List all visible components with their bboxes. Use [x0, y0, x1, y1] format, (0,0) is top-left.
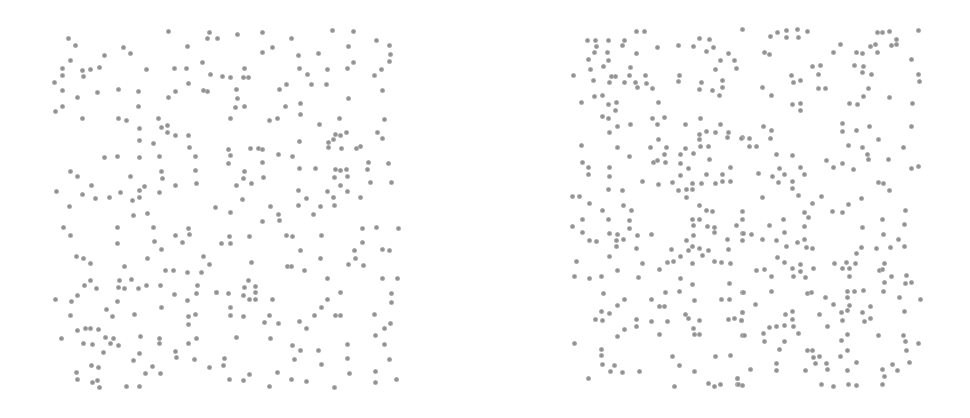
data-point: [304, 196, 309, 201]
data-point: [657, 304, 662, 309]
data-point: [373, 369, 378, 374]
data-point: [860, 310, 865, 315]
data-point: [360, 226, 365, 231]
data-point: [302, 268, 307, 273]
data-point: [664, 145, 669, 150]
data-point: [882, 261, 887, 266]
data-point: [241, 293, 246, 298]
data-point: [131, 358, 136, 363]
data-point: [186, 226, 191, 231]
data-point: [260, 147, 265, 152]
data-point: [270, 45, 275, 50]
data-point: [669, 247, 674, 252]
data-point: [345, 66, 350, 71]
data-point: [290, 154, 295, 159]
data-point: [318, 256, 323, 261]
data-point: [798, 262, 803, 267]
data-point: [802, 210, 807, 215]
data-point: [706, 248, 711, 253]
data-point: [242, 104, 247, 109]
data-point: [339, 146, 344, 151]
data-point: [699, 80, 704, 85]
data-point: [358, 195, 363, 200]
data-point: [600, 318, 605, 323]
data-point: [739, 136, 744, 141]
data-point: [228, 305, 233, 310]
data-point: [593, 317, 598, 322]
data-point: [137, 351, 142, 356]
data-point: [267, 313, 272, 318]
data-point: [360, 240, 365, 245]
data-point: [783, 312, 788, 317]
data-point: [859, 245, 864, 250]
data-point: [704, 172, 709, 177]
data-point: [760, 237, 765, 242]
data-point: [88, 278, 93, 283]
data-point: [774, 152, 779, 157]
data-point: [118, 190, 123, 195]
data-point: [876, 333, 881, 338]
data-point: [298, 112, 303, 117]
data-point: [650, 116, 655, 121]
data-point: [798, 101, 803, 106]
data-point: [706, 144, 711, 149]
data-point: [840, 161, 845, 166]
data-point: [854, 383, 859, 388]
data-point: [767, 223, 772, 228]
data-point: [640, 179, 645, 184]
data-point: [366, 160, 371, 165]
data-point: [810, 64, 815, 69]
data-point: [331, 195, 336, 200]
data-point: [262, 320, 267, 325]
data-point: [184, 66, 189, 71]
data-point: [220, 74, 225, 79]
data-point: [81, 256, 86, 261]
data-point: [663, 160, 668, 165]
data-point: [881, 232, 886, 237]
data-point: [741, 290, 746, 295]
data-point: [396, 226, 401, 231]
data-point: [838, 42, 843, 47]
data-point: [740, 217, 745, 222]
data-point: [345, 342, 350, 347]
data-point: [769, 289, 774, 294]
data-point: [880, 30, 885, 35]
data-point: [382, 117, 387, 122]
data-point: [897, 295, 902, 300]
data-point: [228, 116, 233, 121]
data-point: [861, 94, 866, 99]
data-point: [676, 79, 681, 84]
data-point: [66, 36, 71, 41]
data-point: [395, 276, 400, 281]
data-point: [331, 137, 336, 142]
data-point: [697, 332, 702, 337]
data-point: [917, 79, 922, 84]
data-point: [145, 211, 150, 216]
data-point: [346, 44, 351, 49]
data-point: [629, 208, 634, 213]
data-point: [775, 255, 780, 260]
data-point: [767, 325, 772, 330]
data-point: [649, 319, 654, 324]
data-point: [691, 223, 696, 228]
data-point: [690, 217, 695, 222]
data-point: [615, 145, 620, 150]
data-point: [319, 305, 324, 310]
data-point: [241, 378, 246, 383]
data-point: [707, 157, 712, 162]
data-point: [823, 86, 828, 91]
data-point: [869, 72, 874, 77]
data-point: [187, 232, 192, 237]
data-point: [226, 161, 231, 166]
data-point: [333, 132, 338, 137]
data-point: [338, 290, 343, 295]
data-point: [782, 260, 787, 265]
data-point: [902, 222, 907, 227]
data-point: [692, 298, 697, 303]
data-point: [138, 334, 143, 339]
data-point: [53, 109, 58, 114]
data-point: [137, 384, 142, 389]
data-point: [782, 172, 787, 177]
data-point: [586, 172, 591, 177]
data-point: [847, 303, 852, 308]
